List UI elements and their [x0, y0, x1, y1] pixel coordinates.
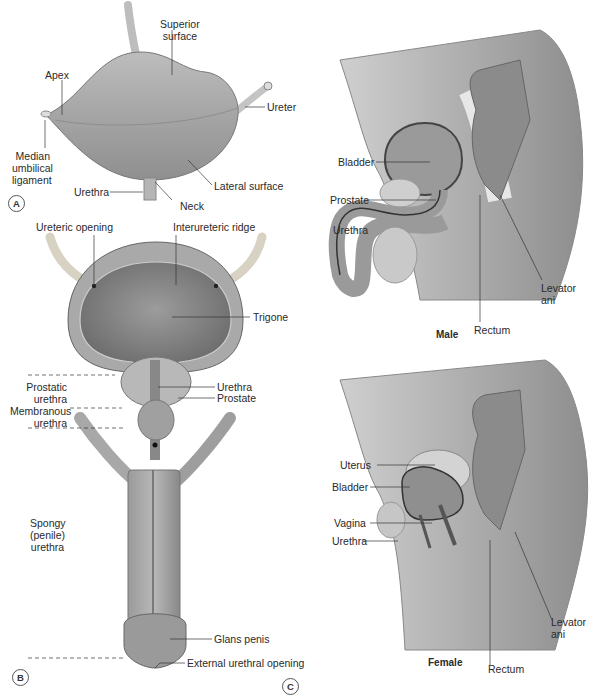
label-spongy-line1: Spongy [30, 517, 65, 529]
label-apex: Apex [45, 69, 69, 81]
label-uterus: Uterus [340, 459, 371, 471]
label-levator-ani-male: Levator ani [541, 282, 576, 306]
label-prostatic-line2: urethra [22, 393, 67, 405]
panel-letter-c: C [282, 678, 299, 695]
label-levator-line2-female: ani [551, 628, 586, 640]
label-ureteric-opening: Ureteric opening [36, 221, 113, 233]
label-membranous-line1: Membranous [10, 405, 67, 417]
label-membranous-urethra: Membranous urethra [10, 405, 67, 429]
panel-a-bladder-external [41, 5, 272, 200]
panel-b-bladder-coronal [28, 235, 262, 668]
label-superior-line1: Superior [160, 18, 200, 30]
label-median-umbilical-ligament: Median umbilical ligament [12, 150, 50, 186]
label-levator-line2-male: ani [541, 294, 576, 306]
label-prostatic-urethra: Prostatic urethra [22, 381, 67, 405]
label-spongy-line3: urethra [30, 541, 65, 553]
label-bladder-female: Bladder [332, 481, 368, 493]
label-external-urethral-opening: External urethral opening [187, 657, 304, 669]
title-female: Female [428, 657, 462, 669]
label-neck: Neck [180, 200, 204, 212]
label-superior-surface: Superior surface [160, 18, 200, 42]
label-median-line1: Median [12, 150, 50, 162]
label-urethra-a: Urethra [74, 186, 109, 198]
label-spongy-line2: (penile) [30, 529, 65, 541]
label-levator-ani-female: Levator ani [551, 616, 586, 640]
label-bladder-male: Bladder [338, 156, 374, 168]
label-urethra-female: Urethra [332, 535, 367, 547]
label-median-line2: umbilical [12, 162, 50, 174]
anatomy-figure: Superior surface Apex Ureter Median umbi… [0, 0, 599, 699]
label-prostate-male: Prostate [330, 194, 369, 206]
label-trigone: Trigone [253, 311, 288, 323]
label-spongy-urethra: Spongy (penile) urethra [30, 517, 65, 553]
label-membranous-line2: urethra [10, 417, 67, 429]
label-superior-line2: surface [160, 30, 200, 42]
label-urethra-male: Urethra [333, 224, 368, 236]
illustration-canvas [0, 0, 599, 699]
label-prostatic-line1: Prostatic [22, 381, 67, 393]
label-prostate-b: Prostate [217, 392, 256, 404]
label-levator-line1-female: Levator [551, 616, 586, 628]
label-vagina: Vagina [334, 517, 366, 529]
label-lateral-surface: Lateral surface [214, 180, 283, 192]
panel-c-male-sagittal [337, 30, 583, 322]
label-rectum-male: Rectum [474, 324, 510, 336]
title-male: Male [436, 329, 458, 341]
label-levator-line1-male: Levator [541, 282, 576, 294]
label-median-line3: ligament [12, 174, 50, 186]
label-ureter: Ureter [267, 101, 296, 113]
panel-letter-a: A [8, 195, 25, 212]
label-rectum-female: Rectum [488, 663, 524, 675]
label-interureteric-ridge: Interureteric ridge [173, 221, 255, 233]
panel-letter-b: B [12, 669, 29, 686]
label-glans-penis: Glans penis [214, 633, 269, 645]
